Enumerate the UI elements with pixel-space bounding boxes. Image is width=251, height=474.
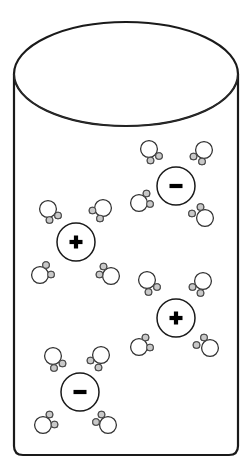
oxygen-atom [197,210,214,227]
oxygen-atom [131,195,148,212]
hydrogen-atom-overlay-1 [197,204,204,211]
ion-negative: - [157,167,195,205]
ion-sign-vertical-bar [74,236,78,249]
hydrogen-atom-overlay-1 [43,262,50,269]
oxygen-atom [100,417,117,434]
hydrogen-atom-overlay-1 [87,357,94,364]
water-molecule [93,411,117,433]
hydrogen-atom-overlay-2 [97,215,104,222]
water-molecule [96,263,119,284]
figure-canvas: -++- [0,0,251,474]
hydrogen-atom-overlay-1 [46,411,53,418]
solvation-diagram: -++- [0,0,251,474]
ion-sign-horizontal-bar [74,390,87,394]
oxygen-atom [195,273,212,290]
ion-negative: - [61,373,99,411]
water-molecule [189,273,211,297]
hydrogen-atom-overlay-2 [51,421,58,428]
oxygen-atom [95,200,112,217]
oxygen-atom [40,201,57,218]
oxygen-atom [93,347,110,364]
hydrogen-atom-overlay-1 [142,334,149,341]
hydrogen-atom-overlay-1 [156,153,163,160]
hydrogen-atom-overlay-2 [147,201,154,208]
water-molecule [190,142,212,165]
water-molecule [131,190,154,211]
hydrogen-atom-overlay-2 [93,419,100,426]
ion-sign-horizontal-bar [170,184,183,188]
hydrogen-atom-overlay-2 [147,157,154,164]
hydrogen-atom-overlay-2 [197,290,204,297]
hydrogen-atom-overlay-2 [46,217,53,224]
hydrogen-atom-overlay-2 [145,289,152,296]
oxygen-atom [103,268,120,285]
hydrogen-atom-overlay-1 [189,284,196,291]
water-molecule [89,200,111,222]
water-molecule [131,334,154,355]
water-molecule [141,141,163,164]
particles-layer: -++- [32,141,219,434]
water-molecule [40,201,62,224]
ion-positive: + [57,223,95,261]
hydrogen-atom-overlay-1 [143,190,150,197]
hydrogen-atom-overlay-2 [147,344,154,351]
oxygen-atom [45,348,62,365]
water-molecule [193,334,218,356]
beaker-group [14,22,238,455]
oxygen-atom [139,272,156,289]
hydrogen-atom-overlay-2 [189,210,196,217]
hydrogen-atom-overlay-2 [199,158,206,165]
hydrogen-atom-overlay-2 [48,271,55,278]
water-molecule [32,262,55,284]
oxygen-atom [141,141,158,158]
hydrogen-atom-overlay-1 [89,207,96,214]
hydrogen-atom-overlay-1 [55,212,62,219]
oxygen-atom [32,267,49,284]
oxygen-atom [202,340,219,357]
oxygen-atom [196,142,213,159]
ion-positive: + [157,299,195,337]
oxygen-atom [35,417,52,434]
water-molecule [139,272,161,296]
water-molecule [87,347,109,371]
hydrogen-atom-overlay-1 [154,284,161,291]
hydrogen-atom-overlay-2 [193,342,200,349]
hydrogen-atom-overlay-1 [98,411,105,418]
water-molecule [35,411,58,433]
hydrogen-atom-overlay-1 [59,360,66,367]
hydrogen-atom-overlay-2 [51,365,58,372]
beaker-rim-ellipse [14,22,238,126]
water-molecule [45,348,66,372]
hydrogen-atom-overlay-1 [201,334,208,341]
ion-sign-vertical-bar [174,312,178,325]
hydrogen-atom-overlay-2 [95,364,102,371]
hydrogen-atom-overlay-1 [100,263,107,270]
hydrogen-atom-overlay-1 [190,153,197,160]
water-molecule [189,204,214,227]
hydrogen-atom-overlay-2 [96,271,103,278]
